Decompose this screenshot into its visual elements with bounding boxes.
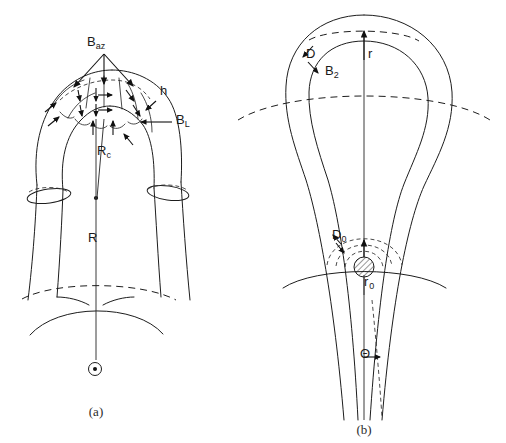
d0-arrow-lower <box>336 243 344 253</box>
label-r-major: R <box>88 230 97 245</box>
winding-pack-hidden-crest <box>60 80 150 100</box>
coil-scallop-3 <box>92 124 107 128</box>
b-az-arrow-left <box>74 54 104 87</box>
toroidal-coil-figure: Baz h BL Rc R <box>0 0 506 443</box>
coil-scallop-4 <box>110 124 125 128</box>
label-b-perp: BL <box>176 112 190 129</box>
theta-dashed-ray <box>372 300 382 418</box>
right-leg-cross-section <box>146 183 190 203</box>
label-r-zero: r0 <box>364 274 374 291</box>
rc-radius-line <box>97 119 104 198</box>
caption-panel-b: (b) <box>356 422 371 437</box>
coil-segment-divider-7 <box>141 93 152 132</box>
coil-segment-divider-3 <box>86 78 90 108</box>
left-leg-foot <box>57 297 89 305</box>
label-r-c: Rc <box>97 143 111 160</box>
axis-out-of-page-dot-icon <box>93 367 97 371</box>
label-r-radius: r <box>368 46 373 61</box>
label-h: h <box>160 83 167 98</box>
coil-outer-left-arc <box>36 70 112 185</box>
coil-scallop-5 <box>128 119 142 124</box>
caption-panel-a: (a) <box>89 404 103 419</box>
left-leg-cross-section <box>26 186 72 206</box>
field-arrow-up-left-1 <box>45 103 56 112</box>
field-arrow-down-4 <box>80 105 82 116</box>
coil-segment-divider-5 <box>119 78 122 109</box>
coil-inner-right-boundary <box>364 41 428 420</box>
coil-inner-right-arc <box>110 106 154 188</box>
label-theta: Θ <box>360 346 370 361</box>
figure-root: Baz h BL Rc R <box>0 0 506 443</box>
coil-scallop-1 <box>60 112 74 118</box>
left-leg-cross-section-hidden-edge <box>29 188 68 193</box>
field-arrow-up-3 <box>124 134 133 145</box>
label-d-thickness: D <box>306 46 315 61</box>
field-arrow-diag-1 <box>126 90 134 101</box>
panel-b-group: D B2 r D0 r0 Θ <box>238 15 490 420</box>
coil-inner-left-leg <box>57 190 63 297</box>
label-d-zero: D0 <box>332 227 346 244</box>
right-leg-foot <box>103 297 134 305</box>
field-arrow-down-3 <box>78 90 80 101</box>
label-b-az: Baz <box>87 34 106 51</box>
field-arrow-up-left-2 <box>48 117 59 126</box>
panel-a-group: Baz h BL Rc R <box>22 34 190 375</box>
coil-segment-divider-6 <box>128 84 138 119</box>
label-b-2: B2 <box>325 63 339 80</box>
coil-inner-right-leg <box>154 188 161 297</box>
plasma-boundary-dashed-arc <box>22 286 176 300</box>
